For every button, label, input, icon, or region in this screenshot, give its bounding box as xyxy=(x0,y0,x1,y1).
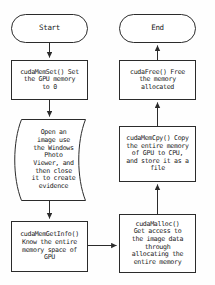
node-cuda-memgetinfo-shape xyxy=(12,222,88,272)
flowchart-canvas xyxy=(0,0,215,285)
node-cuda-malloc-shape xyxy=(120,215,196,273)
node-cuda-memcpy-shape xyxy=(120,127,196,182)
flowchart-diagram: Start End cudaMemSet() Set the GPU memor… xyxy=(0,0,215,285)
node-start-shape xyxy=(12,15,88,43)
node-open-image-shape xyxy=(15,120,86,201)
node-end-shape xyxy=(120,15,196,43)
node-cuda-free-shape xyxy=(120,61,196,100)
node-cuda-memset-shape xyxy=(12,61,88,100)
